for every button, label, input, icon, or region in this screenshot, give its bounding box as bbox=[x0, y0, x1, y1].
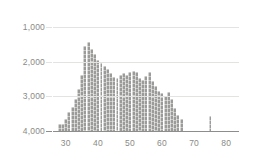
bar-series bbox=[53, 13, 239, 131]
histogram-bar bbox=[180, 119, 183, 131]
x-axis-tick-label: 70 bbox=[189, 139, 199, 148]
y-axis-tick-label: 4,000 bbox=[0, 127, 45, 136]
y-axis-tick-label: 3,000 bbox=[0, 92, 45, 101]
x-axis-line bbox=[53, 131, 239, 132]
x-axis-tick-label: 30 bbox=[61, 139, 71, 148]
y-axis-tick bbox=[46, 62, 52, 63]
gridline bbox=[53, 96, 239, 97]
plot-area bbox=[53, 13, 239, 131]
histogram-bar bbox=[209, 116, 212, 131]
x-axis-tick-label: 40 bbox=[93, 139, 103, 148]
gridline bbox=[53, 27, 239, 28]
x-axis-tick-label: 60 bbox=[157, 139, 167, 148]
x-axis-tick-label: 50 bbox=[125, 139, 135, 148]
y-axis-tick bbox=[46, 96, 52, 97]
x-axis-tick-label: 80 bbox=[221, 139, 231, 148]
histogram-chart: 1,0002,0003,0004,000 304050607080 bbox=[0, 0, 257, 163]
y-axis-tick-label: 2,000 bbox=[0, 57, 45, 66]
y-axis-tick bbox=[46, 131, 52, 132]
y-axis-tick-label: 1,000 bbox=[0, 23, 45, 32]
y-axis-tick bbox=[46, 27, 52, 28]
gridline bbox=[53, 62, 239, 63]
